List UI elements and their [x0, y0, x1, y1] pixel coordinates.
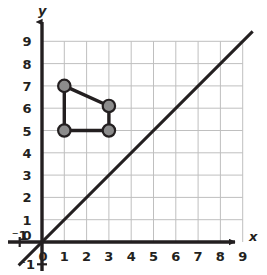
- y-tick-label-8: 8: [18, 58, 36, 71]
- y-tick-label-7: 7: [18, 80, 36, 93]
- x-tick-label-8: 8: [210, 250, 230, 263]
- y-tick-label-6: 6: [18, 102, 36, 115]
- y-axis-label: y: [38, 4, 46, 17]
- y-tick-label-4: 4: [18, 147, 36, 160]
- plot-canvas: [0, 0, 267, 275]
- x-tick-label-5: 5: [144, 250, 164, 263]
- x-tick-label-3: 3: [99, 250, 119, 263]
- y-tick-label-2: 2: [18, 191, 36, 204]
- line-of-reflection-y-equals-x: [20, 32, 252, 264]
- x-tick-label-4: 4: [121, 250, 141, 263]
- vertex-point-3: [58, 124, 70, 136]
- y-tick-label-5: 5: [18, 125, 36, 138]
- vertex-point-0: [58, 80, 70, 92]
- x-tick-label-7: 7: [188, 250, 208, 263]
- origin-label-y: 0: [18, 229, 36, 242]
- y-tick-label-3: 3: [18, 169, 36, 182]
- x-axis-label: x: [249, 230, 257, 243]
- x-tick-label-6: 6: [166, 250, 186, 263]
- y-tick-label-1: 1: [18, 214, 36, 227]
- origin-label-x: 0: [34, 250, 52, 263]
- x-tick-label-2: 2: [77, 250, 97, 263]
- x-tick-label-9: 9: [233, 250, 253, 263]
- coordinate-plane-figure: y x ⁻1123456789 987654321⁻1 00: [0, 0, 267, 275]
- x-tick-label-1: 1: [54, 250, 74, 263]
- vertex-point-1: [103, 100, 115, 112]
- vertex-point-2: [103, 124, 115, 136]
- y-tick-label-9: 9: [18, 35, 36, 48]
